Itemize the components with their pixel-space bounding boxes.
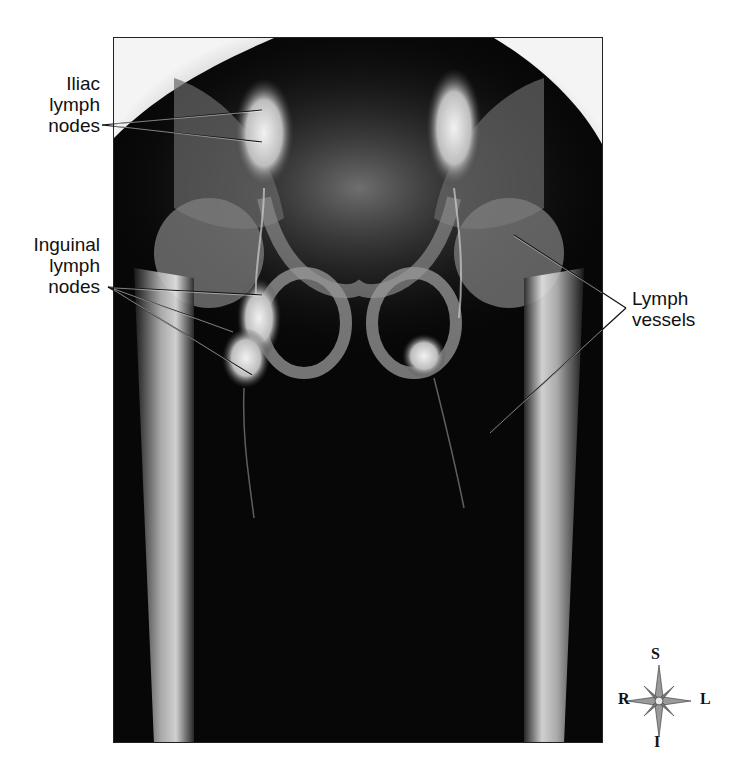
- label-lymph-vessels: Lymph vessels: [632, 288, 732, 330]
- label-line: vessels: [632, 309, 732, 330]
- compass-rose-icon: [618, 645, 742, 755]
- label-line: Lymph: [632, 288, 732, 309]
- label-inguinal-lymph-nodes: Inguinal lymph nodes: [10, 234, 100, 297]
- xray-image: [113, 37, 603, 743]
- label-iliac-lymph-nodes: Iliac lymph nodes: [40, 73, 100, 136]
- label-line: Inguinal: [10, 234, 100, 255]
- label-line: nodes: [10, 276, 100, 297]
- xray-rendering: [114, 38, 603, 743]
- label-line: nodes: [40, 115, 100, 136]
- compass: S I R L: [618, 645, 742, 755]
- label-line: lymph: [10, 255, 100, 276]
- label-line: lymph: [40, 94, 100, 115]
- label-line: Iliac: [40, 73, 100, 94]
